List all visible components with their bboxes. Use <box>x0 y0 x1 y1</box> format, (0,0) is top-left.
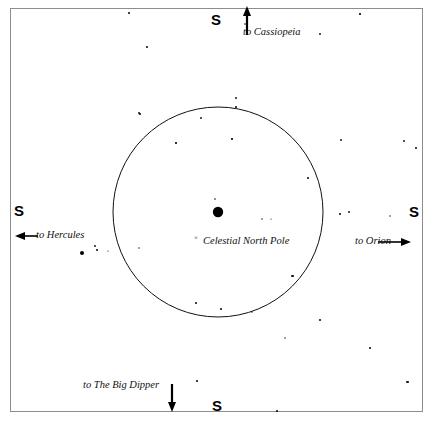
star <box>146 46 148 48</box>
star <box>307 177 309 179</box>
pointer-label-to-orion: to Orion <box>355 236 391 247</box>
star <box>138 112 140 114</box>
pointer-label-to-hercules: to Hercules <box>36 230 84 241</box>
direction-label-south: S <box>212 398 222 413</box>
star <box>244 23 246 25</box>
star <box>369 347 371 349</box>
star <box>231 138 233 140</box>
star <box>96 249 98 251</box>
star <box>406 381 408 383</box>
star <box>415 147 417 149</box>
pointer-label-to-the-big-dipper: to The Big Dipper <box>83 380 159 391</box>
star <box>270 218 271 219</box>
star <box>107 250 108 251</box>
star <box>138 247 139 248</box>
star <box>389 215 390 216</box>
star-polaris <box>213 207 223 217</box>
star <box>261 218 262 219</box>
star <box>195 302 197 304</box>
direction-label-west: S <box>14 203 24 218</box>
star <box>94 245 96 247</box>
celestial-north-pole-label: Celestial North Pole <box>203 235 289 246</box>
star <box>128 12 130 14</box>
star <box>291 275 293 277</box>
star <box>235 106 237 108</box>
star <box>80 251 84 255</box>
star <box>175 142 177 144</box>
star <box>284 337 285 338</box>
star <box>200 117 202 119</box>
direction-label-north: S <box>211 12 221 27</box>
star-chart: S S S S to Cassiopeia to Orion to The Bi… <box>0 0 433 431</box>
arrow-down-big-dipper <box>168 384 176 412</box>
star <box>340 139 342 141</box>
pole-cross-icon: × <box>194 234 198 242</box>
star <box>319 319 321 321</box>
pointer-label-to-cassiopeia: to Cassiopeia <box>243 27 300 38</box>
star <box>214 198 216 200</box>
arrow-left-hercules <box>15 232 38 240</box>
star <box>359 13 361 15</box>
star <box>220 308 222 310</box>
star <box>196 380 198 382</box>
star <box>276 410 278 412</box>
star-field <box>80 12 417 412</box>
direction-label-east: S <box>409 204 419 219</box>
star <box>348 211 350 213</box>
star <box>235 97 237 99</box>
star <box>339 213 341 215</box>
star <box>319 33 321 35</box>
star <box>403 140 405 142</box>
sky-layer <box>0 0 433 431</box>
